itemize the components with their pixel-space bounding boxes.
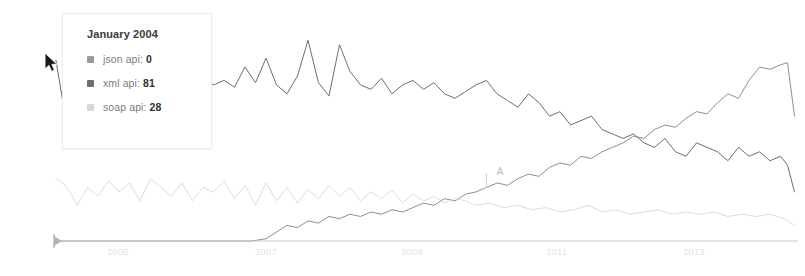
- tooltip-soap-text: soap api: 28: [103, 101, 161, 113]
- legend-swatch-xml-icon: [87, 80, 94, 87]
- hover-tooltip: January 2004 json api: 0 xml api: 81 soa…: [62, 13, 212, 149]
- axis-layer: [54, 173, 798, 248]
- mouse-cursor-icon: [44, 52, 60, 74]
- axis-start-marker-icon: [54, 236, 62, 246]
- tooltip-xml-label: xml api:: [103, 77, 140, 89]
- x-tick-label-4: 2013: [683, 247, 705, 257]
- tooltip-json-text: json api: 0: [103, 53, 152, 65]
- tooltip-row-json: json api: 0: [87, 53, 211, 65]
- tooltip-xml-text: xml api: 81: [103, 77, 155, 89]
- legend-swatch-soap-icon: [87, 104, 94, 111]
- x-tick-label-0: 2005: [107, 247, 129, 257]
- trends-chart-screen: 2005 2007 2009 2011 2013 A January 2004 …: [0, 0, 805, 276]
- legend-swatch-json-icon: [87, 56, 94, 63]
- annotation-marker-a[interactable]: A: [497, 166, 504, 177]
- tooltip-soap-label: soap api:: [103, 101, 147, 113]
- tooltip-soap-value: 28: [150, 101, 162, 113]
- x-tick-label-1: 2007: [255, 247, 277, 257]
- x-tick-label-2: 2009: [401, 247, 423, 257]
- tooltip-title: January 2004: [87, 28, 211, 40]
- series-line-soap-api[interactable]: [56, 179, 795, 226]
- tooltip-row-xml: xml api: 81: [87, 77, 211, 89]
- x-tick-label-3: 2011: [547, 247, 568, 257]
- tooltip-json-value: 0: [146, 53, 152, 65]
- tooltip-row-soap: soap api: 28: [87, 101, 211, 113]
- tooltip-xml-value: 81: [143, 77, 155, 89]
- tooltip-json-label: json api:: [103, 53, 143, 65]
